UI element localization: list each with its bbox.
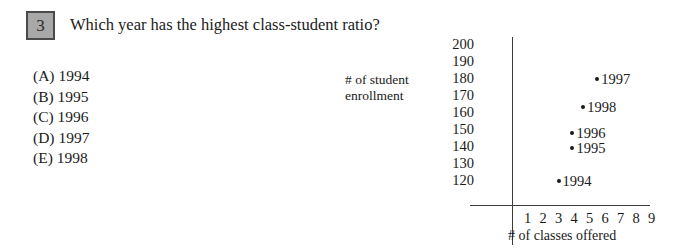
scatter-chart: # of student enrollment 2001901801701601…: [340, 30, 670, 245]
data-point-1997: [595, 77, 599, 81]
x-tick-5: 5: [583, 209, 597, 227]
question-number: 3: [36, 17, 45, 34]
x-tick-4: 4: [567, 209, 581, 227]
y-axis-label: # of student enrollment: [345, 72, 430, 104]
y-tick-130: 130: [432, 155, 474, 172]
y-tick-180: 180: [432, 70, 474, 87]
choice-c[interactable]: (C) 1996: [33, 107, 89, 128]
y-tick-150: 150: [432, 121, 474, 138]
y-tick-170: 170: [432, 87, 474, 104]
choice-d[interactable]: (D) 1997: [33, 128, 89, 149]
x-tick-3: 3: [552, 209, 566, 227]
x-tick-8: 8: [629, 209, 643, 227]
data-point-1996: [570, 131, 574, 135]
data-point-1995: [570, 146, 574, 150]
x-tick-2: 2: [536, 209, 550, 227]
y-axis-line: [512, 37, 513, 245]
data-label-1996: 1996: [576, 126, 605, 140]
y-axis-label-line-2: enrollment: [345, 88, 430, 104]
y-tick-120: 120: [432, 172, 474, 189]
y-tick-200: 200: [432, 36, 474, 53]
data-point-1998: [581, 105, 585, 109]
question-number-box: 3: [26, 11, 55, 40]
x-axis-line: [470, 205, 650, 206]
x-tick-7: 7: [614, 209, 628, 227]
data-label-1997: 1997: [601, 72, 630, 86]
x-tick-9: 9: [645, 209, 659, 227]
data-label-1994: 1994: [563, 174, 592, 188]
choice-b[interactable]: (B) 1995: [33, 87, 89, 108]
answer-choices-list: (A) 1994 (B) 1995 (C) 1996 (D) 1997 (E) …: [33, 66, 89, 169]
data-label-1998: 1998: [587, 100, 616, 114]
choice-e[interactable]: (E) 1998: [33, 148, 89, 169]
x-tick-1: 1: [521, 209, 535, 227]
y-tick-160: 160: [432, 104, 474, 121]
x-axis-label: # of classes offered: [508, 228, 616, 244]
y-axis-label-line-1: # of student: [345, 72, 430, 88]
y-axis-tick-labels: 200190180170160150140130120: [432, 36, 474, 189]
y-tick-140: 140: [432, 138, 474, 155]
choice-a[interactable]: (A) 1994: [33, 66, 89, 87]
data-point-1994: [557, 179, 561, 183]
question-text: Which year has the highest class-student…: [70, 15, 380, 35]
data-label-1995: 1995: [576, 141, 605, 155]
x-tick-6: 6: [598, 209, 612, 227]
y-tick-190: 190: [432, 53, 474, 70]
